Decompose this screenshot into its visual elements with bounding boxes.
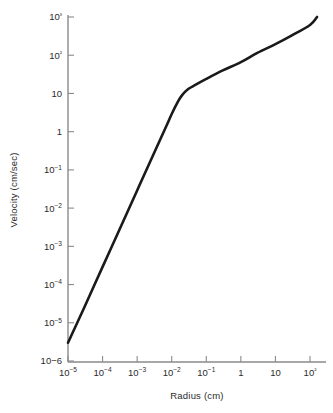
x-axis-title: Radius (cm) bbox=[170, 390, 223, 401]
tick-label: 10−6 bbox=[41, 355, 62, 366]
tick-label: 1 bbox=[57, 126, 62, 137]
y-axis-title: Velocity (cm/sec) bbox=[8, 152, 19, 227]
chart-figure: 10³10²10110−110−210−310−410−510−6 10−510… bbox=[0, 0, 333, 413]
tick-label: 10 bbox=[270, 367, 281, 378]
velocity-radius-log-log-chart: 10³10²10110−110−210−310−410−510−6 10−510… bbox=[0, 0, 333, 413]
tick-label: 10 bbox=[51, 88, 62, 99]
tick-label: 1 bbox=[238, 367, 243, 378]
